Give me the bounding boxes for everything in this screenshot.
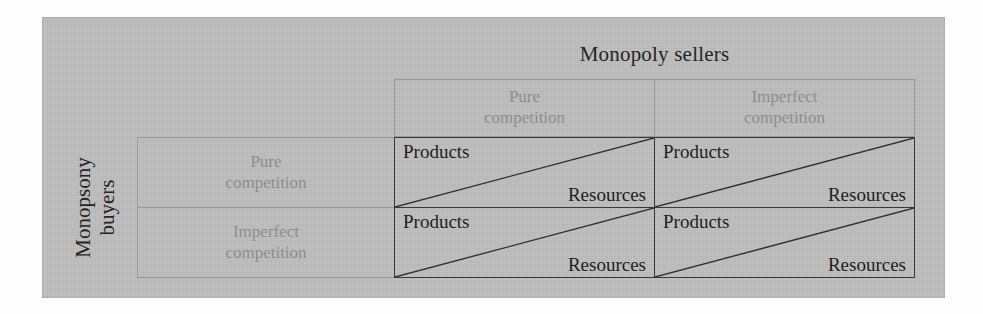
cell-resources-label: Resources: [828, 254, 906, 276]
matrix-cell: Products Resources: [394, 207, 655, 278]
matrix-cell: Products Resources: [654, 137, 915, 208]
cell-resources-label: Resources: [568, 254, 646, 276]
row-header-pure-competition: Pure competition: [137, 137, 395, 208]
cell-products-label: Products: [663, 211, 730, 233]
row-header-1-line1: Imperfect: [225, 222, 306, 243]
cell-products-label: Products: [403, 141, 470, 163]
matrix-figure: Monopoly sellers Monopsony buyers Pure c…: [0, 0, 983, 314]
row-axis-title: Monopsony buyers: [57, 137, 135, 278]
cell-products-label: Products: [663, 141, 730, 163]
row-header-imperfect-competition: Imperfect competition: [137, 207, 395, 278]
column-header-1-line2: competition: [744, 108, 825, 129]
row-header-0-line2: competition: [225, 173, 306, 194]
row-axis-title-line2: buyers: [96, 157, 120, 257]
row-header-0-line1: Pure: [225, 152, 306, 173]
column-header-0-line2: competition: [484, 108, 565, 129]
column-header-0-line1: Pure: [484, 87, 565, 108]
column-header-imperfect-competition: Imperfect competition: [654, 79, 915, 137]
column-header-pure-competition: Pure competition: [394, 79, 655, 137]
column-header-1-line1: Imperfect: [744, 87, 825, 108]
matrix-cell: Products Resources: [654, 207, 915, 278]
row-axis-title-line1: Monopsony: [72, 157, 96, 257]
column-axis-title: Monopoly sellers: [394, 42, 915, 67]
cell-resources-label: Resources: [568, 184, 646, 206]
cell-products-label: Products: [403, 211, 470, 233]
matrix-cell: Products Resources: [394, 137, 655, 208]
row-header-1-line2: competition: [225, 243, 306, 264]
cell-resources-label: Resources: [828, 184, 906, 206]
